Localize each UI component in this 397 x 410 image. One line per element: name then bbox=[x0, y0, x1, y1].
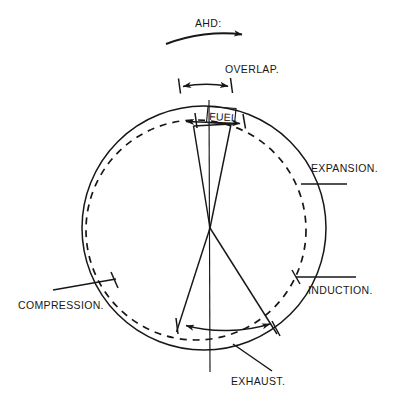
fuel-tick-right bbox=[243, 114, 246, 129]
rotation-direction-marker: AHD: bbox=[166, 17, 242, 44]
induction-callout: INDUCTION. bbox=[292, 270, 373, 296]
sector-line-fuel-open bbox=[194, 126, 211, 228]
overlap-tick-right bbox=[231, 78, 233, 93]
sector-lines bbox=[177, 124, 278, 334]
fuel-label: FUEL bbox=[209, 110, 238, 124]
compression-label: COMPRESSION. bbox=[18, 299, 104, 311]
sector-chord-top bbox=[194, 124, 232, 126]
overlap-dimension: OVERLAP. bbox=[179, 63, 279, 94]
overlap-label: OVERLAP. bbox=[225, 63, 279, 75]
inner-dashed-circle bbox=[86, 120, 306, 340]
expansion-callout: EXPANSION. bbox=[301, 162, 378, 184]
exhaust-label: EXHAUST. bbox=[231, 375, 285, 387]
overlap-tick-left bbox=[179, 79, 181, 94]
vertical-centre-line bbox=[209, 100, 210, 372]
rotation-direction-label: AHD: bbox=[195, 17, 222, 29]
exhaust-leader-line bbox=[233, 344, 272, 371]
sector-line-exhaust-open bbox=[177, 228, 211, 332]
compression-callout: COMPRESSION. bbox=[18, 272, 118, 311]
outer-cycle-circle bbox=[82, 106, 326, 350]
exhaust-callout: EXHAUST. bbox=[231, 344, 285, 387]
induction-label: INDUCTION. bbox=[308, 284, 373, 296]
diagram-canvas: AHD: OVERLAP. FUEL bbox=[0, 0, 397, 410]
curved-arrow-right-icon bbox=[166, 33, 242, 44]
valve-timing-diagram: AHD: OVERLAP. FUEL bbox=[0, 0, 397, 410]
expansion-label: EXPANSION. bbox=[311, 162, 378, 174]
compression-leader-line bbox=[53, 279, 116, 290]
sector-line-induction-close bbox=[210, 228, 277, 334]
exhaust-dimension-arc bbox=[186, 324, 270, 331]
sector-line-fuel-close bbox=[210, 125, 231, 229]
overlap-dimension-arc bbox=[183, 84, 228, 86]
